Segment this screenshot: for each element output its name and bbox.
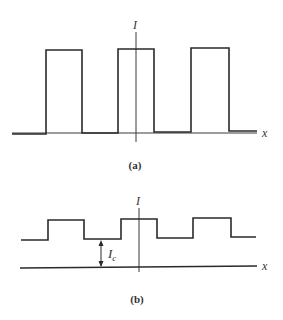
offset-label: Ic	[107, 246, 116, 263]
panel-a-square-wave	[12, 48, 257, 134]
arrow-down-icon	[99, 261, 104, 267]
panel-b-x-axis	[20, 266, 257, 268]
panel-a-x-label: x	[261, 126, 268, 140]
panel-a: I x (a)	[12, 18, 268, 172]
arrow-up-icon	[99, 240, 104, 246]
panel-a-y-label: I	[132, 18, 138, 32]
panel-a-caption: (a)	[129, 159, 142, 172]
panel-b-caption: (b)	[130, 293, 144, 306]
panel-b-x-label: x	[261, 259, 268, 273]
offset-arrow	[99, 240, 104, 267]
diagram-canvas: I x (a) I x Ic (b)	[0, 0, 283, 320]
panel-b: I x Ic (b)	[20, 194, 268, 306]
panel-b-y-label: I	[135, 194, 141, 208]
